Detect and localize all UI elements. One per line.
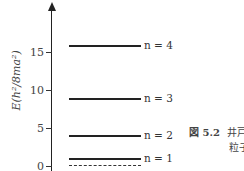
level-label-n2: n = 2 (144, 130, 173, 141)
energy-baseline-zero (69, 165, 141, 166)
level-label-n3: n = 3 (144, 93, 173, 104)
tick-label-10: 10 (24, 85, 44, 96)
tick-label-0: 0 (24, 161, 44, 171)
caption-line2: 粒子 (229, 142, 244, 153)
tick-10 (46, 90, 52, 91)
energy-level-n2 (69, 135, 141, 137)
energy-level-n1 (69, 158, 141, 160)
tick-label-5: 5 (24, 123, 44, 134)
tick-5 (46, 128, 52, 129)
level-label-n4: n = 4 (144, 40, 173, 51)
tick-0 (46, 166, 52, 167)
energy-level-n3 (69, 98, 141, 100)
figure-number: 図 5.2 (189, 127, 220, 138)
y-axis-label: E(h²/8ma²) (10, 51, 23, 111)
tick-15 (46, 52, 52, 53)
energy-level-n4 (69, 45, 141, 47)
caption-line1: 井戸 (227, 127, 244, 138)
tick-label-15: 15 (24, 47, 44, 58)
figure-caption: 図 5.2 井戸 粒子 (189, 125, 244, 155)
level-label-n1: n = 1 (144, 153, 173, 164)
